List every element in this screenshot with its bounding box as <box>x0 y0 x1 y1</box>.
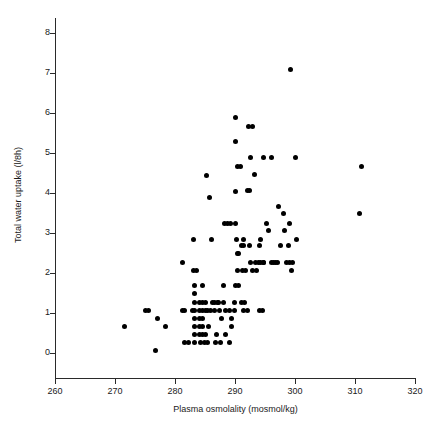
data-point <box>258 237 263 242</box>
x-tick-mark <box>355 379 356 384</box>
data-point <box>153 348 158 353</box>
data-point <box>281 211 286 216</box>
y-tick-label: 0 <box>34 348 50 357</box>
x-tick-label: 310 <box>340 386 370 396</box>
data-point <box>219 316 224 321</box>
data-point <box>248 260 253 265</box>
y-tick-label-wrap: 6 <box>28 108 50 117</box>
y-tick-label: 5 <box>34 148 50 157</box>
data-point <box>212 308 217 313</box>
data-point <box>200 283 205 288</box>
data-point <box>243 268 248 273</box>
data-point <box>234 237 239 242</box>
y-tick-label-wrap: 8 <box>28 28 50 37</box>
data-point <box>194 268 199 273</box>
data-point <box>276 204 281 209</box>
y-tick-label: 3 <box>34 228 50 237</box>
data-point <box>260 308 265 313</box>
data-point <box>357 211 362 216</box>
x-tick-label: 290 <box>220 386 250 396</box>
data-point <box>228 221 233 226</box>
y-tick-label-wrap: 0 <box>28 348 50 357</box>
y-tick-label-wrap: 1 <box>28 308 50 317</box>
y-tick-label: 7 <box>34 68 50 77</box>
data-point <box>204 173 209 178</box>
data-point <box>254 268 259 273</box>
data-point <box>261 260 266 265</box>
data-point <box>182 308 187 313</box>
data-point <box>218 340 223 345</box>
data-point <box>266 228 271 233</box>
data-point <box>233 221 238 226</box>
data-point <box>192 283 197 288</box>
data-point <box>252 172 257 177</box>
data-point <box>257 243 262 248</box>
data-point <box>286 243 291 248</box>
data-point <box>248 155 253 160</box>
y-tick-label-wrap: 2 <box>28 268 50 277</box>
x-tick-mark <box>295 379 296 384</box>
y-tick-mark <box>50 193 55 194</box>
y-tick-label-wrap: 5 <box>28 148 50 157</box>
data-point <box>223 332 228 337</box>
data-point <box>203 332 208 337</box>
data-point <box>261 155 266 160</box>
data-point <box>221 283 226 288</box>
data-point <box>227 340 232 345</box>
data-point <box>206 324 211 329</box>
x-tick-label: 270 <box>100 386 130 396</box>
x-tick-label: 300 <box>280 386 310 396</box>
data-point <box>186 340 191 345</box>
y-tick-label: 8 <box>34 28 50 37</box>
data-point <box>200 324 205 329</box>
x-tick-label: 320 <box>400 386 427 396</box>
data-point <box>236 251 241 256</box>
data-point <box>250 124 255 129</box>
data-point <box>288 67 293 72</box>
y-tick-label: 1 <box>34 308 50 317</box>
data-point <box>359 164 364 169</box>
y-tick-mark <box>50 273 55 274</box>
data-point <box>180 260 185 265</box>
x-tick-label: 260 <box>40 386 70 396</box>
data-point <box>290 260 295 265</box>
data-point <box>217 308 222 313</box>
x-tick-mark <box>115 379 116 384</box>
x-axis-title: Plasma osmolality (mosmol/kg) <box>55 404 416 414</box>
y-tick-label: 4 <box>34 188 50 197</box>
data-point <box>239 300 244 305</box>
x-tick-label: 280 <box>160 386 190 396</box>
data-point <box>247 188 252 193</box>
data-point <box>264 221 269 226</box>
data-point <box>293 155 298 160</box>
y-tick-mark <box>50 233 55 234</box>
data-point <box>214 332 219 337</box>
data-point <box>163 324 168 329</box>
data-point <box>232 300 237 305</box>
data-point <box>192 324 197 329</box>
data-point <box>191 237 196 242</box>
x-tick-mark <box>55 379 56 384</box>
y-tick-mark <box>50 113 55 114</box>
x-tick-mark <box>415 379 416 384</box>
data-point <box>192 340 197 345</box>
data-point <box>192 291 197 296</box>
y-tick-label: 6 <box>34 108 50 117</box>
data-point <box>247 243 252 248</box>
x-tick-mark <box>235 379 236 384</box>
data-point <box>233 139 238 144</box>
data-point <box>289 268 294 273</box>
data-point <box>209 237 214 242</box>
data-point <box>269 155 274 160</box>
data-point <box>155 316 160 321</box>
data-point <box>146 308 151 313</box>
y-tick-label-wrap: 3 <box>28 228 50 237</box>
y-tick-label-wrap: 4 <box>28 188 50 197</box>
data-point <box>205 340 210 345</box>
data-point <box>229 324 234 329</box>
y-tick-mark <box>50 153 55 154</box>
data-point <box>232 308 237 313</box>
data-point <box>238 164 243 169</box>
